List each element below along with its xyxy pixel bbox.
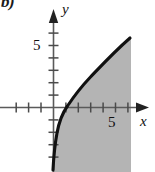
x-axis-arrowhead xyxy=(136,103,149,113)
coordinate-plot xyxy=(0,0,155,172)
y-axis-arrowhead xyxy=(49,9,58,23)
figure-panel: b) xyxy=(0,0,155,172)
x-axis-label: x xyxy=(140,114,147,129)
y-axis-label: y xyxy=(62,2,69,17)
shaded-region xyxy=(53,38,131,172)
y-axis-tick-label-5: 5 xyxy=(33,38,41,53)
x-axis-tick-label-5: 5 xyxy=(108,115,116,130)
